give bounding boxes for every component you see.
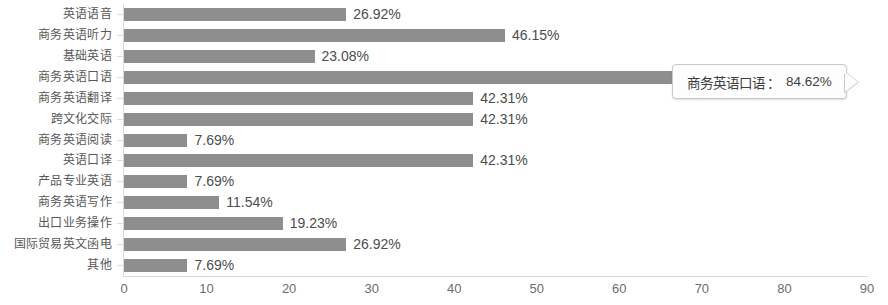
bar-value-label: 42.31% — [480, 90, 527, 107]
category-label: 商务英语听力 — [0, 25, 112, 46]
y-axis-tick-mark — [117, 265, 123, 266]
x-axis-tick-label: 10 — [199, 281, 213, 296]
category-label: 商务英语阅读 — [0, 130, 112, 151]
y-axis-tick-mark — [117, 35, 123, 36]
y-axis-tick-mark — [117, 223, 123, 224]
bar-value-label: 7.69% — [194, 257, 234, 274]
x-axis-tick-label: 70 — [695, 281, 709, 296]
horizontal-bar-chart: 英语语音26.92%商务英语听力46.15%基础英语23.08%商务英语口语商务… — [0, 0, 888, 305]
category-label: 基础英语 — [0, 46, 112, 67]
category-label: 其他 — [0, 255, 112, 276]
bar-value-label: 7.69% — [194, 173, 234, 190]
category-label: 商务英语写作 — [0, 192, 112, 213]
category-label: 英语语音 — [0, 4, 112, 25]
y-axis-tick-mark — [117, 14, 123, 15]
y-axis-tick-mark — [117, 244, 123, 245]
bar-row[interactable]: 出口业务操作19.23% — [0, 213, 888, 234]
bar-value-label: 23.08% — [322, 48, 369, 65]
bar-value-label: 19.23% — [290, 215, 337, 232]
bar[interactable] — [124, 175, 187, 188]
bar[interactable] — [124, 113, 473, 126]
category-label: 商务英语口语 — [0, 67, 112, 88]
category-label: 跨文化交际 — [0, 109, 112, 130]
bar-value-label: 42.31% — [480, 152, 527, 169]
tooltip-separator: ： — [767, 72, 780, 92]
bar[interactable] — [124, 134, 187, 147]
x-axis-tick-label: 30 — [364, 281, 378, 296]
bar[interactable] — [124, 50, 315, 63]
x-axis-tick-label: 20 — [282, 281, 296, 296]
x-axis-tick-label: 60 — [612, 281, 626, 296]
y-axis-tick-mark — [117, 140, 123, 141]
bar-value-label: 46.15% — [512, 27, 559, 44]
y-axis-tick-mark — [117, 98, 123, 99]
y-axis-tick-mark — [117, 181, 123, 182]
bar[interactable] — [124, 154, 473, 167]
x-axis-tick-label: 0 — [120, 281, 127, 296]
bar[interactable] — [124, 8, 346, 21]
x-axis-tick-label: 50 — [530, 281, 544, 296]
bar-value-label: 42.31% — [480, 111, 527, 128]
bar[interactable] — [124, 238, 346, 251]
bar-value-label: 7.69% — [194, 132, 234, 149]
x-axis-line — [123, 276, 868, 277]
bar[interactable] — [124, 29, 505, 42]
bar-row[interactable]: 其他7.69% — [0, 255, 888, 276]
tooltip-arrow-icon — [845, 72, 858, 92]
y-axis-tick-mark — [117, 77, 123, 78]
bar[interactable] — [124, 196, 219, 209]
y-axis-tick-mark — [117, 202, 123, 203]
y-axis-tick-mark — [117, 56, 123, 57]
category-label: 出口业务操作 — [0, 213, 112, 234]
category-label: 商务英语翻译 — [0, 88, 112, 109]
bar-value-label: 11.54% — [226, 194, 272, 211]
y-axis-tick-mark — [117, 119, 123, 120]
x-axis-tick-label: 90 — [860, 281, 874, 296]
y-axis-tick-mark — [117, 160, 123, 161]
x-axis-tick-label: 80 — [777, 281, 791, 296]
bar-row[interactable]: 英语口译42.31% — [0, 150, 888, 171]
bar-row[interactable]: 国际贸易英文函电26.92% — [0, 234, 888, 255]
x-axis-tick-label: 40 — [447, 281, 461, 296]
bar[interactable] — [124, 92, 473, 105]
bar-row[interactable]: 英语语音26.92% — [0, 4, 888, 25]
category-label: 英语口译 — [0, 150, 112, 171]
bar-row[interactable]: 跨文化交际42.31% — [0, 109, 888, 130]
bar-row[interactable]: 商务英语阅读7.69% — [0, 130, 888, 151]
bar-row[interactable]: 商务英语听力46.15% — [0, 25, 888, 46]
bar-tooltip: 商务英语口语：84.62% — [672, 64, 847, 99]
bar-value-label: 26.92% — [353, 236, 400, 253]
bar[interactable] — [124, 259, 187, 272]
category-label: 国际贸易英文函电 — [0, 234, 112, 255]
bar[interactable] — [124, 217, 283, 230]
bar-value-label: 26.92% — [353, 6, 400, 23]
tooltip-value-label: 84.62% — [786, 74, 832, 89]
tooltip-category-label: 商务英语口语 — [687, 72, 765, 92]
bar-row[interactable]: 产品专业英语7.69% — [0, 171, 888, 192]
bar-row[interactable]: 商务英语写作11.54% — [0, 192, 888, 213]
category-label: 产品专业英语 — [0, 171, 112, 192]
